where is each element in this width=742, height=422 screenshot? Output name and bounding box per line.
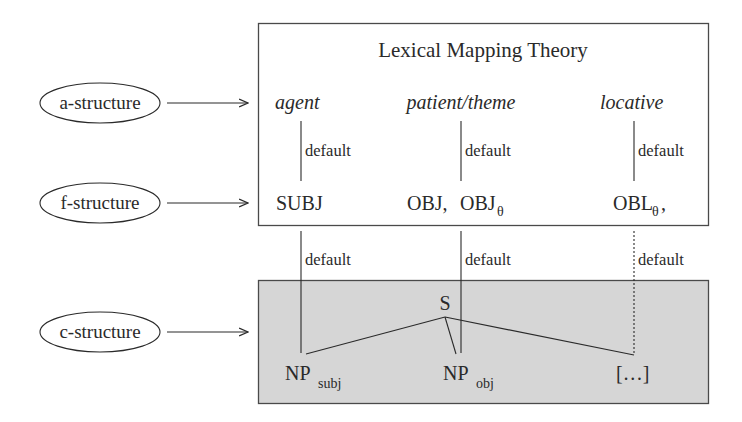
svg-text:f-structure: f-structure xyxy=(60,192,139,213)
svg-text:subj: subj xyxy=(318,376,341,391)
default-label: default xyxy=(305,250,351,269)
svg-text:a-structure: a-structure xyxy=(59,92,140,113)
diagram-title: Lexical Mapping Theory xyxy=(378,38,588,62)
level-c-structure: c-structure xyxy=(40,312,160,352)
svg-text:NP: NP xyxy=(443,362,469,384)
svg-text:NP: NP xyxy=(285,362,311,384)
default-label: default xyxy=(638,141,684,160)
svg-text:obj: obj xyxy=(476,376,494,391)
svg-text:c-structure: c-structure xyxy=(59,321,140,342)
role-patient-theme: patient/theme xyxy=(405,91,516,114)
svg-text:OBL: OBL xyxy=(613,192,653,214)
role-locative: locative xyxy=(600,91,663,113)
svg-text:θ: θ xyxy=(652,204,659,219)
default-label: default xyxy=(305,141,351,160)
svg-text:OBJ: OBJ xyxy=(460,192,496,214)
tree-root-s: S xyxy=(439,292,450,314)
default-label: default xyxy=(465,141,511,160)
tree-other: […] xyxy=(616,362,649,384)
lmt-diagram: Lexical Mapping Theory a-structure f-str… xyxy=(0,0,742,422)
default-label: default xyxy=(638,250,684,269)
level-f-structure: f-structure xyxy=(40,183,160,223)
default-label: default xyxy=(465,250,511,269)
level-a-structure: a-structure xyxy=(40,83,160,123)
svg-text:,: , xyxy=(661,192,666,214)
svg-text:OBJ,: OBJ, xyxy=(407,192,448,214)
role-agent: agent xyxy=(275,91,320,114)
svg-text:θ: θ xyxy=(497,204,504,219)
function-subj: SUBJ xyxy=(276,192,323,214)
